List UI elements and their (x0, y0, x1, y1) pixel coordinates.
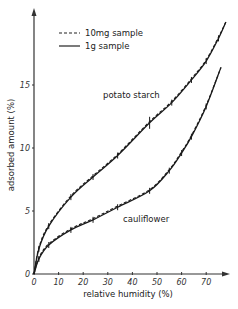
x-tick-label: 70 (201, 278, 211, 287)
y-tick-label: 10 (20, 144, 30, 153)
x-tick-label: 20 (78, 278, 88, 287)
x-tick-label: 50 (152, 278, 162, 287)
legend-label-1g: 1g sample (85, 41, 129, 51)
series-potato-starch-10mg (34, 22, 226, 274)
y-ticks: 051015 (20, 81, 34, 279)
series-group (34, 22, 226, 274)
x-tick-label: 30 (103, 278, 113, 287)
x-tick-label: 60 (177, 278, 187, 287)
label-potato-starch: potato starch (103, 90, 160, 100)
legend: 10mg sample 1g sample (59, 28, 143, 51)
y-tick-label: 0 (25, 270, 30, 279)
x-tick-label: 0 (31, 278, 36, 287)
x-axis-title: relative humidity (%) (83, 289, 173, 299)
x-axis-arrow-icon (222, 272, 230, 277)
x-tick-label: 10 (54, 278, 64, 287)
y-tick-label: 15 (20, 81, 30, 90)
legend-label-10mg: 10mg sample (85, 28, 143, 38)
series-potato-starch-1g (34, 22, 226, 274)
chart: 010203040506070 051015 relative humidity… (0, 0, 238, 309)
y-axis-title: adsorbed amount (%) (6, 99, 16, 192)
x-tick-label: 40 (127, 278, 137, 287)
y-tick-label: 5 (25, 207, 30, 216)
y-axis-arrow-icon (32, 8, 37, 16)
label-cauliflower: cauliflower (123, 214, 170, 224)
